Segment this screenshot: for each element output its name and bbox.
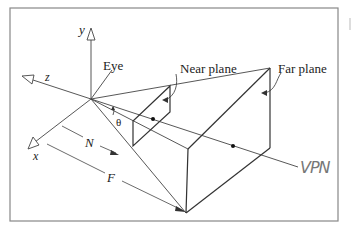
far-plane bbox=[186, 68, 281, 213]
near-plane-arrow-icon bbox=[162, 97, 168, 103]
f-dimension-line-a bbox=[47, 144, 105, 173]
z-axis-arrow-icon bbox=[22, 75, 34, 84]
frustum-diagram bbox=[0, 0, 354, 233]
axes bbox=[22, 28, 112, 149]
z-axis bbox=[33, 80, 91, 99]
x-axis bbox=[35, 99, 91, 142]
x-axis-arrow-icon bbox=[28, 137, 39, 149]
z-axis-label: z bbox=[45, 71, 50, 83]
near-plane bbox=[133, 74, 177, 146]
far-plane-arrow-icon bbox=[261, 90, 267, 96]
f-distance-label: F bbox=[107, 171, 115, 184]
vpn-handwritten-label: VPN bbox=[300, 160, 330, 176]
near-plane-leader bbox=[165, 74, 177, 100]
n-dimension-line-a bbox=[62, 126, 83, 137]
frustum-rays bbox=[91, 68, 298, 213]
vpn-line bbox=[91, 99, 298, 167]
y-axis-arrow-icon bbox=[87, 28, 95, 40]
near-plane-label: Near plane bbox=[180, 62, 237, 75]
y-axis-label: y bbox=[79, 23, 85, 36]
dimension-lines bbox=[47, 126, 186, 212]
n-dimension-arrow-icon bbox=[110, 150, 119, 155]
theta-label: θ bbox=[116, 117, 121, 128]
far-plane-leader bbox=[265, 73, 281, 93]
eye-leader bbox=[91, 70, 112, 99]
far-plane-label: Far plane bbox=[278, 62, 327, 75]
near-plane-center-dot bbox=[151, 117, 155, 121]
figure-frame bbox=[10, 8, 338, 221]
far-plane-center-dot bbox=[231, 144, 235, 148]
n-distance-label: N bbox=[85, 136, 94, 149]
x-axis-label: x bbox=[33, 150, 38, 162]
f-dimension-line-b bbox=[122, 181, 184, 211]
eye-label: Eye bbox=[103, 59, 123, 72]
